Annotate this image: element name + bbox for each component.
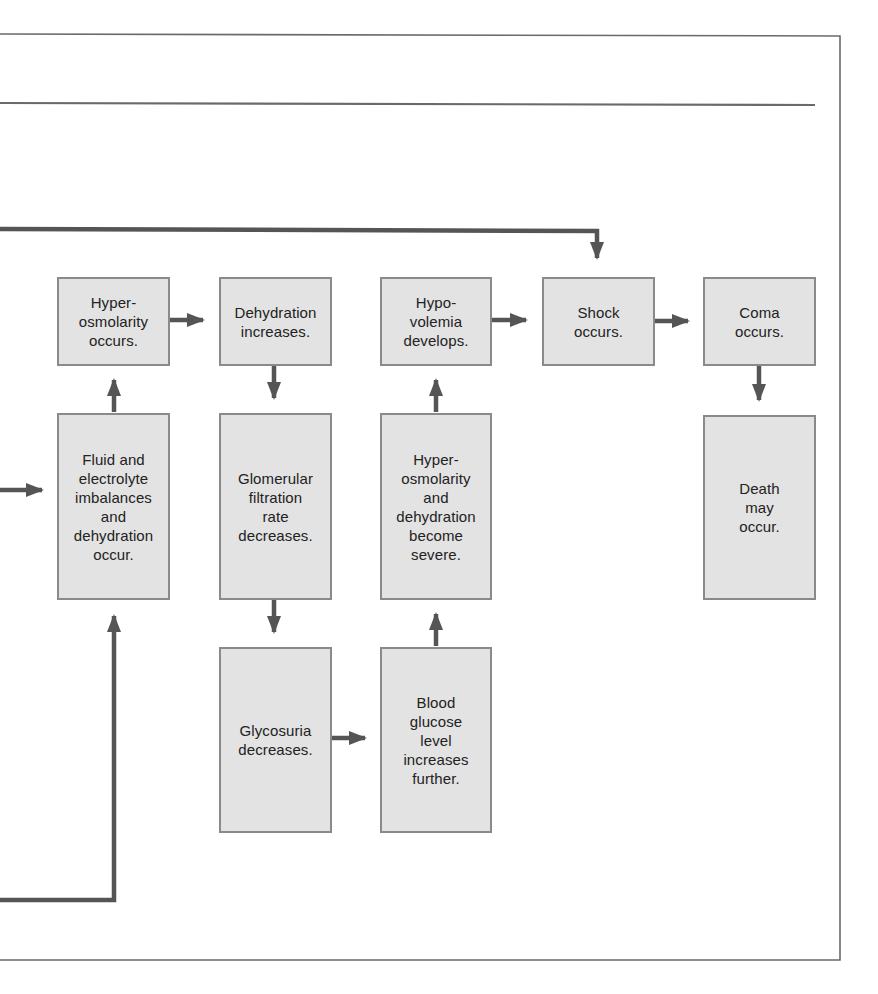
flowchart-canvas: Hyper- osmolarity occurs. Dehydration in… xyxy=(0,0,878,994)
node-label: Death may occur. xyxy=(739,479,780,536)
node-coma: Coma occurs. xyxy=(703,277,816,366)
node-label: Shock occurs. xyxy=(574,303,623,341)
node-gfr-decreases: Glomerular filtration rate decreases. xyxy=(219,413,332,600)
node-label: Hyper- osmolarity and dehydration become… xyxy=(396,450,476,564)
node-label: Glycosuria decreases. xyxy=(238,721,312,759)
node-hyperosmolarity-severe: Hyper- osmolarity and dehydration become… xyxy=(380,413,492,600)
node-label: Hyper- osmolarity occurs. xyxy=(79,293,148,350)
node-blood-glucose: Blood glucose level increases further. xyxy=(380,647,492,833)
node-label: Glomerular filtration rate decreases. xyxy=(238,469,313,545)
node-fluid-electrolyte: Fluid and electrolyte imbalances and deh… xyxy=(57,413,170,600)
node-hypovolemia: Hypo- volemia develops. xyxy=(380,277,492,366)
node-label: Coma occurs. xyxy=(735,303,784,341)
node-shock: Shock occurs. xyxy=(542,277,655,366)
node-hyperosmolarity: Hyper- osmolarity occurs. xyxy=(57,277,170,366)
node-label: Fluid and electrolyte imbalances and deh… xyxy=(74,450,154,564)
node-glycosuria-decreases: Glycosuria decreases. xyxy=(219,647,332,833)
node-label: Hypo- volemia develops. xyxy=(403,293,468,350)
node-dehydration-increases: Dehydration increases. xyxy=(219,277,332,366)
node-death: Death may occur. xyxy=(703,415,816,600)
node-label: Dehydration increases. xyxy=(235,303,317,341)
node-label: Blood glucose level increases further. xyxy=(403,693,468,788)
